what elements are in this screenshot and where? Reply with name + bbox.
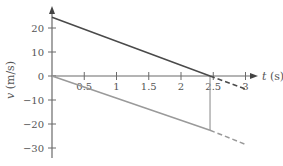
series-lower-extension	[210, 130, 245, 144]
x-tick-label: 2.5	[205, 81, 221, 92]
x-tick-label: 1	[113, 81, 119, 92]
y-tick-label: −10	[23, 95, 44, 106]
y-tick-label: 10	[31, 47, 44, 58]
y-tick-label: 0	[38, 71, 44, 82]
y-axis-arrow-icon	[49, 6, 55, 14]
x-axis-label: t (s)	[262, 70, 283, 83]
y-tick-label: 20	[31, 23, 44, 34]
series-lower	[52, 76, 210, 130]
x-axis-arrow-icon	[250, 73, 258, 79]
x-tick-label: 1.5	[141, 81, 157, 92]
velocity-time-chart: 0.511.522.5320100−10−20−30 t (s) v (m/s)	[0, 0, 283, 166]
y-tick-label: −30	[23, 143, 44, 154]
ticks: 0.511.522.5320100−10−20−30	[23, 23, 249, 154]
y-tick-label: −20	[23, 119, 44, 130]
axis-labels: t (s) v (m/s)	[4, 61, 283, 99]
x-tick-label: 2	[178, 81, 184, 92]
x-tick-label: 3	[242, 81, 248, 92]
series-upper	[52, 17, 210, 76]
y-axis-label: v (m/s)	[4, 61, 17, 99]
